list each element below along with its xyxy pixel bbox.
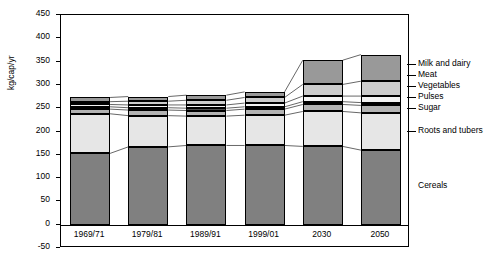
x-tick-label: 1979/81 — [118, 229, 176, 239]
y-tick-mark — [56, 154, 60, 155]
x-axis-ticks: 1969/711979/811989/911999/0120302050 — [0, 0, 504, 271]
y-tick-mark — [56, 37, 60, 38]
legend-item-label: Pulses — [418, 91, 444, 101]
legend-leader-line — [407, 64, 416, 65]
y-tick-mark — [56, 107, 60, 108]
legend-leader-line — [407, 131, 416, 132]
legend-leader-line — [407, 86, 416, 87]
x-tick-label: 1969/71 — [60, 229, 118, 239]
x-tick-label: 2030 — [293, 229, 351, 239]
y-tick-mark — [56, 224, 60, 225]
legend-leader-line — [407, 75, 416, 76]
legend-item-label: Milk and dairy — [418, 58, 470, 68]
y-tick-mark — [56, 131, 60, 132]
y-tick-mark — [56, 200, 60, 201]
y-tick-mark — [56, 84, 60, 85]
legend-item-label: Meat — [418, 69, 437, 79]
y-tick-mark — [56, 247, 60, 248]
legend-leader-line — [407, 97, 416, 98]
x-tick-label: 1999/01 — [235, 229, 293, 239]
y-tick-mark — [56, 61, 60, 62]
y-tick-mark — [56, 177, 60, 178]
legend-item-label: Roots and tubers — [418, 125, 483, 135]
x-tick-label: 2050 — [351, 229, 409, 239]
y-tick-mark — [56, 14, 60, 15]
x-tick-label: 1989/91 — [176, 229, 234, 239]
legend-leader-line — [407, 108, 416, 109]
series-inline-label: Cereals — [418, 180, 447, 190]
legend-item-label: Sugar — [418, 102, 441, 112]
legend-item-label: Vegetables — [418, 80, 460, 90]
stacked-bar-chart: kg/cap/yr -50050100150200250300350400450… — [0, 0, 504, 271]
